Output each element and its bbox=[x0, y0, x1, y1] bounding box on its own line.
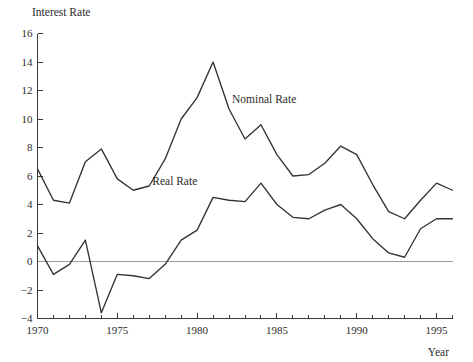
x-tick-label-1970: 1970 bbox=[27, 324, 50, 336]
x-axis-group: 197019751980198519901995 bbox=[27, 313, 453, 336]
series-annotations: Nominal RateReal Rate bbox=[152, 93, 296, 186]
series-label-real-rate: Real Rate bbox=[152, 175, 197, 187]
y-tick-label-8: 8 bbox=[27, 141, 33, 153]
x-axis-tick-labels: 197019751980198519901995 bbox=[27, 324, 449, 336]
y-tick-label-0: 0 bbox=[27, 255, 33, 267]
y-tick-label-16: 16 bbox=[22, 27, 34, 39]
x-tick-label-1980: 1980 bbox=[186, 324, 209, 336]
y-tick-label-14: 14 bbox=[22, 56, 34, 68]
x-tick-label-1975: 1975 bbox=[106, 324, 129, 336]
series-line-nominal-rate bbox=[38, 62, 453, 219]
y-tick-label-10: 10 bbox=[22, 113, 34, 125]
x-tick-label-1985: 1985 bbox=[266, 324, 289, 336]
chart-plot-area: −4−20246810121416 1970197519801985199019… bbox=[0, 0, 473, 362]
interest-rate-chart: −4−20246810121416 1970197519801985199019… bbox=[0, 0, 473, 362]
y-tick-label-6: 6 bbox=[27, 170, 33, 182]
x-axis-title: Year bbox=[428, 346, 449, 358]
y-axis-group: −4−20246810121416 bbox=[21, 27, 43, 324]
y-tick-label-2: 2 bbox=[27, 227, 33, 239]
series-line-real-rate bbox=[38, 183, 453, 313]
x-axis-ticks bbox=[38, 313, 453, 319]
y-tick-label--2: −2 bbox=[21, 284, 33, 296]
y-axis-tick-labels: −4−20246810121416 bbox=[21, 27, 33, 324]
y-tick-label--4: −4 bbox=[21, 312, 33, 324]
series-label-nominal-rate: Nominal Rate bbox=[232, 93, 296, 105]
y-axis-title: Interest Rate bbox=[32, 6, 90, 18]
y-tick-label-4: 4 bbox=[27, 198, 33, 210]
y-tick-label-12: 12 bbox=[22, 84, 33, 96]
x-tick-label-1990: 1990 bbox=[346, 324, 369, 336]
x-tick-label-1995: 1995 bbox=[426, 324, 449, 336]
